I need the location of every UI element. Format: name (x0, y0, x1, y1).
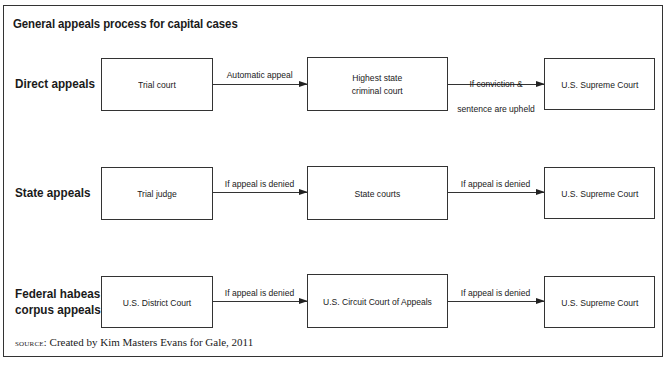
arrow-federal-if-denied-1 (213, 301, 307, 302)
arrow-label-text: If appeal is denied (225, 177, 294, 190)
arrow-label-federal-if-denied-2: If appeal is denied (448, 286, 544, 299)
box-us-supreme-court-federal: U.S. Supreme Court (544, 276, 655, 328)
box-label: U.S. District Court (123, 296, 191, 309)
box-label: Trial judge (137, 187, 177, 200)
box-label: State courts (355, 187, 401, 200)
source-note: source: Created by Kim Masters Evans for… (15, 336, 253, 348)
arrow-federal-if-denied-2 (448, 301, 544, 302)
box-trial-court: Trial court (101, 58, 213, 111)
box-label: Highest state criminal court (352, 71, 403, 97)
arrow-label-text: If appeal is denied (461, 286, 530, 299)
arrow-label-text: If conviction & sentence are upheld (457, 71, 534, 121)
source-prefix: source: (15, 337, 47, 348)
arrow-state-if-denied-1 (213, 192, 307, 193)
box-label: Trial court (138, 78, 176, 91)
box-us-supreme-court-state: U.S. Supreme Court (544, 167, 655, 219)
box-highest-state-criminal-court: Highest state criminal court (307, 57, 448, 111)
box-label: U.S. Circuit Court of Appeals (323, 295, 432, 308)
box-label: U.S. Supreme Court (561, 296, 638, 309)
arrow-label-text: If appeal is denied (461, 177, 530, 190)
box-us-circuit-court-of-appeals: U.S. Circuit Court of Appeals (307, 274, 448, 328)
box-label: U.S. Supreme Court (561, 187, 638, 200)
arrow-automatic-appeal (213, 84, 307, 85)
source-text: Created by Kim Masters Evans for Gale, 2… (47, 336, 253, 348)
arrow-label-federal-if-denied-1: If appeal is denied (213, 286, 307, 299)
box-label: U.S. Supreme Court (561, 78, 638, 91)
arrow-label-text: If appeal is denied (225, 286, 294, 299)
diagram-title: General appeals process for capital case… (13, 16, 238, 31)
box-us-district-court: U.S. District Court (101, 276, 213, 328)
arrow-label-state-if-denied-2: If appeal is denied (448, 177, 544, 190)
row-label-direct-appeals: Direct appeals (15, 76, 95, 92)
box-state-courts: State courts (307, 166, 448, 220)
arrow-label-if-conviction-upheld: If conviction & sentence are upheld (448, 71, 544, 121)
arrow-state-if-denied-2 (448, 192, 544, 193)
arrow-label-state-if-denied-1: If appeal is denied (213, 177, 307, 190)
arrow-label-automatic-appeal: Automatic appeal (213, 68, 307, 81)
box-trial-judge: Trial judge (101, 167, 213, 220)
box-us-supreme-court-direct: U.S. Supreme Court (544, 58, 655, 110)
row-label-federal-habeas: Federal habeas corpus appeals (15, 286, 101, 318)
row-label-state-appeals: State appeals (15, 185, 90, 201)
arrow-label-text: Automatic appeal (227, 68, 293, 81)
